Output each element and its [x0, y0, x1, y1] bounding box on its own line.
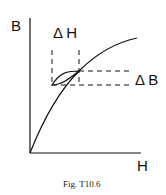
x-axis-label: H: [137, 158, 148, 173]
minor-hysteresis-loop: [52, 71, 79, 85]
delta-h-label: Δ H: [53, 25, 77, 40]
figure-caption: Fig. T10.6: [63, 180, 101, 189]
magnetization-curve: [30, 38, 137, 153]
delta-b-label: Δ B: [135, 72, 158, 87]
y-axis-label: B: [11, 18, 21, 33]
figure: B H Δ H Δ B Fig. T10.6: [0, 0, 166, 195]
